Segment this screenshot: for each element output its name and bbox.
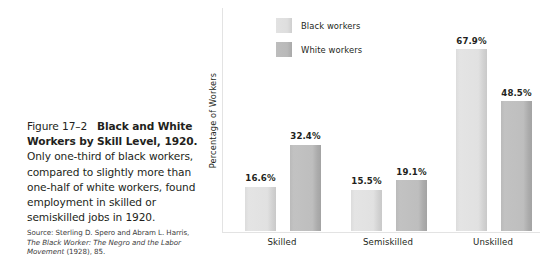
bar-rect-unskilled-white: 48.5% xyxy=(501,101,532,231)
bar-value-unskilled-white: 48.5% xyxy=(501,88,531,98)
y-axis-title: Percentage of Workers xyxy=(206,8,220,233)
bar-rect-semiskilled-black: 15.5% xyxy=(351,190,382,232)
x-tick-label-skilled: Skilled xyxy=(267,237,296,247)
x-tick-label-semiskilled: Semiskilled xyxy=(363,237,413,247)
figure-source: Source: Sterling D. Spero and Abram L. H… xyxy=(27,228,215,256)
x-axis-labels: Skilled Semiskilled Unskilled xyxy=(222,237,540,251)
caption-spacer xyxy=(87,120,97,132)
source-line-1: Source: Sterling D. Spero and Abram L. H… xyxy=(27,228,189,237)
bar-value-semiskilled-white: 19.1% xyxy=(396,167,426,177)
bar-rect-unskilled-black: 67.9% xyxy=(456,49,487,231)
bar-value-unskilled-black: 67.9% xyxy=(456,36,486,46)
figure-caption: Figure 17–2 Black and White Workers by S… xyxy=(27,119,215,263)
bar-chart: Percentage of Workers Black workers Whit… xyxy=(222,8,540,233)
plot-area: 16.6% 32.4% 15.5% 19.1 xyxy=(224,8,540,231)
figure-number: Figure 17–2 xyxy=(27,120,87,132)
bar-rect-skilled-black: 16.6% xyxy=(245,187,276,232)
bar-value-semiskilled-black: 15.5% xyxy=(351,176,381,186)
bar-value-skilled-black: 16.6% xyxy=(245,173,275,183)
source-line-3-rest: (1928), 85. xyxy=(64,247,105,256)
figure-17-2: Figure 17–2 Black and White Workers by S… xyxy=(0,0,543,264)
figure-description: Only one-third of black workers, compare… xyxy=(27,150,195,223)
source-line-3-italic: Movement xyxy=(27,247,64,256)
source-line-2: The Black Worker: The Negro and the Labo… xyxy=(27,238,181,247)
bar-value-skilled-white: 32.4% xyxy=(290,131,320,141)
bar-rect-semiskilled-white: 19.1% xyxy=(396,180,427,231)
bar-rect-skilled-white: 32.4% xyxy=(290,145,321,232)
caption-text: Figure 17–2 Black and White Workers by S… xyxy=(27,119,215,225)
x-tick-label-unskilled: Unskilled xyxy=(473,237,513,247)
